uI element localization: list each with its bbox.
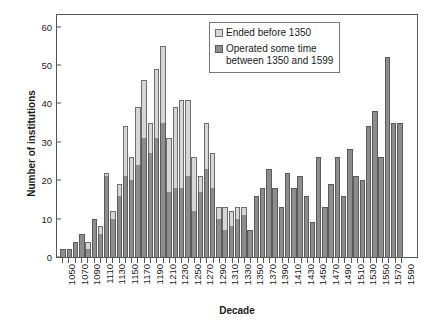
bar-segment-operated-1350-1599 [210, 188, 215, 257]
bar-segment-operated-1350-1599 [191, 211, 196, 257]
bar-segment-operated-1350-1599 [347, 149, 352, 257]
y-axis-title: Number of institutions [26, 44, 37, 244]
bar-segment-ended-before-1350 [216, 207, 221, 219]
x-axis-tick-mark [137, 258, 138, 263]
x-axis-tick-label: 1450 [317, 264, 328, 285]
bar-segment-operated-1350-1599 [241, 215, 246, 257]
x-axis-tick-mark [376, 258, 377, 263]
x-axis-tick-mark [282, 258, 283, 263]
x-axis-tick-label: 1130 [116, 264, 127, 284]
bar-column [397, 15, 403, 257]
x-axis-tick-mark [206, 258, 207, 263]
x-axis-tick-mark [332, 258, 333, 263]
x-axis-tick-mark [112, 258, 113, 263]
x-axis-tick-label: 1510 [355, 264, 366, 285]
x-axis-tick-mark [313, 258, 314, 263]
x-axis-tick-mark [125, 258, 126, 263]
bar-segment-ended-before-1350 [222, 207, 227, 230]
x-axis-tick-label: 1250 [192, 264, 203, 285]
x-axis-tick-label: 1290 [217, 264, 228, 285]
bar-segment-operated-1350-1599 [391, 123, 396, 257]
bar-segment-ended-before-1350 [191, 157, 196, 211]
bar-segment-operated-1350-1599 [73, 242, 78, 257]
x-axis-tick-mark [275, 258, 276, 263]
x-axis-tick-label: 1190 [154, 264, 165, 284]
bar-segment-operated-1350-1599 [85, 249, 90, 257]
bar-segment-operated-1350-1599 [328, 184, 333, 257]
x-axis-tick-mark [250, 258, 251, 263]
x-axis-tick-mark [288, 258, 289, 263]
bar-segment-operated-1350-1599 [279, 207, 284, 257]
bar-segment-operated-1350-1599 [360, 180, 365, 257]
x-axis-tick-mark [395, 258, 396, 263]
x-axis-tick-label: 1390 [279, 264, 290, 285]
bar-segment-operated-1350-1599 [110, 219, 115, 257]
x-axis-tick-mark [257, 258, 258, 263]
bar-segment-operated-1350-1599 [272, 188, 277, 257]
x-axis-tick-mark [263, 258, 264, 263]
legend-item-operated-1350-1599: Operated some time between 1350 and 1599 [215, 43, 333, 68]
x-axis-tick-label: 1070 [79, 264, 90, 285]
bar-segment-operated-1350-1599 [285, 173, 290, 258]
bar-segment-ended-before-1350 [166, 138, 171, 192]
bar-segment-operated-1350-1599 [397, 123, 402, 257]
bar-segment-operated-1350-1599 [98, 234, 103, 257]
x-axis-tick-mark [244, 258, 245, 263]
x-axis-tick-label: 1470 [330, 264, 341, 285]
bar-segment-operated-1350-1599 [154, 138, 159, 257]
bar-segment-operated-1350-1599 [235, 219, 240, 257]
x-axis-tick-label: 1530 [367, 264, 378, 285]
bar-segment-operated-1350-1599 [229, 226, 234, 257]
bar-segment-operated-1350-1599 [378, 157, 383, 257]
bar-segment-operated-1350-1599 [92, 219, 97, 257]
legend-swatch-light-icon [215, 29, 223, 37]
bar-segment-operated-1350-1599 [141, 138, 146, 257]
bar-segment-operated-1350-1599 [160, 123, 165, 257]
x-axis-tick-mark [363, 258, 364, 263]
bar-segment-ended-before-1350 [210, 153, 215, 188]
bar-segment-operated-1350-1599 [185, 176, 190, 257]
bar-segment-operated-1350-1599 [204, 169, 209, 257]
x-axis-tick-label: 1270 [204, 264, 215, 285]
bar-segment-operated-1350-1599 [366, 126, 371, 257]
x-axis-tick-mark [357, 258, 358, 263]
bar-segment-ended-before-1350 [123, 126, 128, 176]
y-axis-tick-label: 10 [41, 213, 57, 224]
bar-segment-operated-1350-1599 [104, 176, 109, 257]
x-axis-tick-label: 1490 [342, 264, 353, 285]
x-axis-tick-mark [144, 258, 145, 263]
bar-segment-operated-1350-1599 [198, 192, 203, 257]
bar-segment-operated-1350-1599 [222, 230, 227, 257]
bar-segment-ended-before-1350 [141, 80, 146, 138]
bar-segment-ended-before-1350 [235, 207, 240, 219]
x-axis-tick-mark [131, 258, 132, 263]
y-axis-tick-label: 40 [41, 98, 57, 109]
x-axis-tick-label: 1370 [267, 264, 278, 285]
legend-label-operated-1350-1599: Operated some time between 1350 and 1599 [226, 43, 333, 68]
bar-segment-ended-before-1350 [173, 107, 178, 188]
bar-segment-operated-1350-1599 [353, 176, 358, 257]
x-axis-tick-mark [188, 258, 189, 263]
bar-segment-ended-before-1350 [160, 46, 165, 123]
bar-segment-ended-before-1350 [179, 100, 184, 188]
x-axis-tick-mark [68, 258, 69, 263]
x-axis-tick-mark [163, 258, 164, 263]
x-axis-tick-mark [194, 258, 195, 263]
bar-segment-ended-before-1350 [241, 207, 246, 215]
bar-chart-figure: Number of institutions 0102030405060 105… [0, 0, 437, 325]
x-axis-tick-mark [307, 258, 308, 263]
bar-segment-operated-1350-1599 [148, 153, 153, 257]
x-axis-tick-mark [401, 258, 402, 263]
x-axis-tick-mark [326, 258, 327, 263]
bar-segment-ended-before-1350 [229, 211, 234, 226]
bar-segment-ended-before-1350 [135, 107, 140, 165]
x-axis-tick-label: 1550 [380, 264, 391, 285]
bar-segment-operated-1350-1599 [179, 188, 184, 257]
bar-segment-operated-1350-1599 [266, 169, 271, 257]
bar-segment-operated-1350-1599 [254, 196, 259, 257]
bar-segment-operated-1350-1599 [335, 157, 340, 257]
bar-segment-ended-before-1350 [204, 123, 209, 169]
bar-segment-ended-before-1350 [98, 226, 103, 234]
x-axis-tick-mark [100, 258, 101, 263]
chart-legend: Ended before 1350 Operated some time bet… [209, 22, 340, 73]
